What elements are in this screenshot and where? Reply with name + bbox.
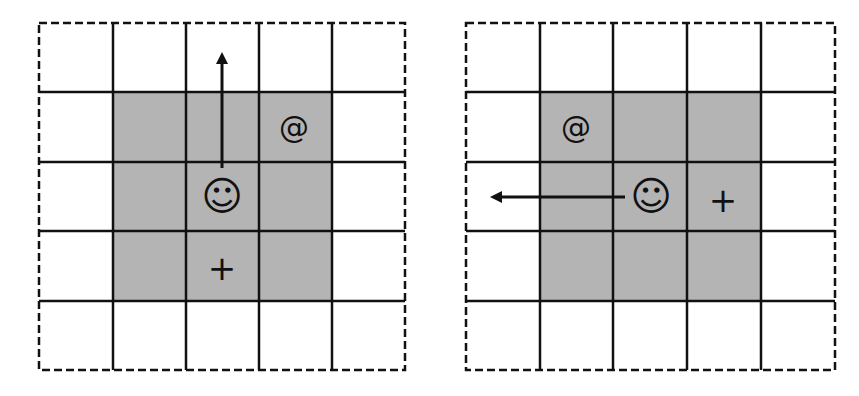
plus-symbol-target: +: [709, 183, 738, 217]
smiley-agent-icon: ☺: [201, 176, 243, 216]
at-symbol-target: @: [279, 113, 309, 143]
smiley-agent-icon: ☺: [630, 176, 672, 216]
at-symbol-target: @: [561, 113, 591, 143]
plus-symbol-target: +: [208, 251, 237, 285]
